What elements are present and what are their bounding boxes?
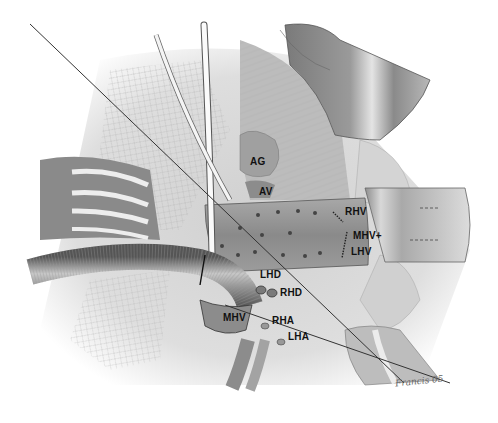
label-mhv: MHV bbox=[223, 313, 246, 323]
label-lha: LHA bbox=[288, 332, 309, 342]
label-rhd: RHD bbox=[280, 288, 302, 298]
label-ag: AG bbox=[250, 157, 265, 167]
label-lhd: LHD bbox=[260, 270, 281, 280]
ribs bbox=[40, 157, 160, 240]
label-rhv: RHV bbox=[345, 207, 367, 217]
label-lhv: LHV bbox=[351, 247, 372, 257]
surgical-illustration bbox=[0, 0, 498, 423]
label-mhv-plus: MHV+ bbox=[353, 231, 382, 241]
label-av: AV bbox=[259, 187, 273, 197]
label-rha: RHA bbox=[272, 316, 294, 326]
